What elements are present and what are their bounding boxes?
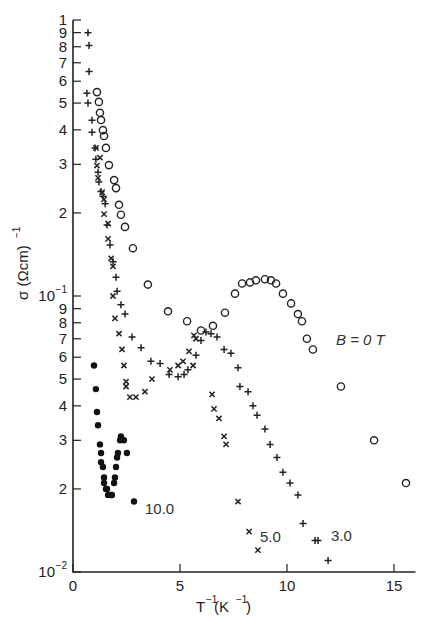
data-point: [309, 346, 316, 353]
data-point: [104, 486, 110, 492]
data-point: [298, 318, 305, 325]
data-point: [131, 498, 137, 504]
data-point: [234, 364, 241, 371]
series-b-5-0-t: [93, 145, 260, 552]
data-point: [294, 492, 301, 499]
data-point: [216, 416, 221, 421]
y-tick-exponent: −1: [56, 284, 68, 295]
y-tick-label: 5: [59, 370, 67, 387]
x-axis-label-end: ): [246, 598, 251, 615]
data-point: [209, 322, 216, 329]
data-point: [121, 223, 128, 230]
data-point: [93, 386, 99, 392]
series-b-3-0-t: [83, 29, 331, 564]
series-b-10-0-t: [91, 362, 137, 504]
data-point: [109, 492, 115, 498]
y-axis-label: σ (Ωcm) −1: [11, 226, 31, 300]
data-point: [221, 434, 226, 439]
y-tick-label: 8: [59, 38, 67, 55]
data-point: [183, 318, 190, 325]
data-point: [111, 480, 117, 486]
data-point: [255, 548, 260, 553]
data-point: [231, 290, 238, 297]
data-point: [129, 334, 136, 341]
data-point: [86, 42, 93, 49]
data-point: [181, 371, 188, 378]
data-point: [117, 211, 124, 218]
data-point: [127, 395, 132, 400]
data-point: [167, 367, 172, 372]
data-point: [214, 334, 221, 341]
data-point: [108, 256, 113, 261]
data-point: [97, 155, 102, 160]
data-point: [89, 117, 96, 124]
y-tick-label: 8: [59, 314, 67, 331]
data-point: [286, 480, 293, 487]
data-point: [245, 388, 252, 395]
y-tick-label: 2: [59, 204, 67, 221]
data-point: [100, 464, 106, 470]
data-point: [325, 557, 332, 564]
data-point: [94, 163, 99, 168]
data-point: [86, 68, 93, 75]
data-point: [93, 88, 100, 95]
data-point: [113, 274, 120, 281]
data-point: [123, 384, 128, 389]
data-point: [95, 422, 101, 428]
data-point: [112, 474, 118, 480]
data-point: [180, 359, 185, 364]
y-tick-label: 4: [59, 397, 67, 414]
data-point: [300, 520, 307, 527]
data-point: [97, 441, 103, 447]
data-point: [227, 350, 234, 357]
data-point: [287, 300, 294, 307]
data-point: [202, 329, 209, 336]
data-point: [221, 309, 228, 316]
data-point: [112, 185, 119, 192]
data-point: [149, 376, 154, 381]
data-point: [147, 358, 154, 365]
data-point: [254, 412, 261, 419]
data-point: [273, 454, 280, 461]
x-tick-label: 0: [69, 577, 77, 594]
data-point: [249, 402, 256, 409]
conductivity-plot: 19876543210−19876543210−2051015 B = 0 T …: [0, 0, 430, 629]
data-point: [113, 464, 119, 470]
data-point: [193, 352, 200, 359]
data-point: [110, 293, 115, 298]
data-point: [402, 479, 409, 486]
data-point: [144, 281, 151, 288]
data-point: [223, 442, 228, 447]
data-point: [175, 373, 182, 380]
x-tick-label: 5: [176, 577, 184, 594]
y-axis-label-text: σ (Ωcm): [14, 245, 31, 300]
label-b10: 10.0: [145, 500, 174, 517]
x-axis-label-base: T: [196, 598, 205, 615]
data-point: [84, 100, 91, 107]
y-tick-label: 3: [59, 155, 67, 172]
axes: 19876543210−19876543210−2051015: [38, 11, 415, 594]
data-point: [279, 469, 286, 476]
data-point: [190, 363, 195, 368]
x-axis-label-mid: (K: [214, 598, 229, 615]
y-tick-label: 10: [38, 287, 55, 304]
data-point: [102, 144, 109, 151]
data-point: [115, 450, 121, 456]
data-point: [119, 347, 124, 352]
data-point: [91, 362, 97, 368]
data-point: [235, 499, 240, 504]
y-axis-label-sup: −1: [11, 226, 22, 238]
data-point: [101, 474, 107, 480]
data-point: [133, 395, 138, 400]
data-point: [115, 201, 122, 208]
data-points: [83, 29, 409, 564]
data-point: [238, 280, 245, 287]
data-point: [101, 212, 106, 217]
y-tick-label: 2: [59, 480, 67, 497]
data-point: [211, 406, 216, 411]
data-point: [101, 480, 107, 486]
data-point: [84, 29, 91, 36]
data-point: [370, 437, 377, 444]
data-point: [261, 425, 268, 432]
data-point: [221, 346, 228, 353]
